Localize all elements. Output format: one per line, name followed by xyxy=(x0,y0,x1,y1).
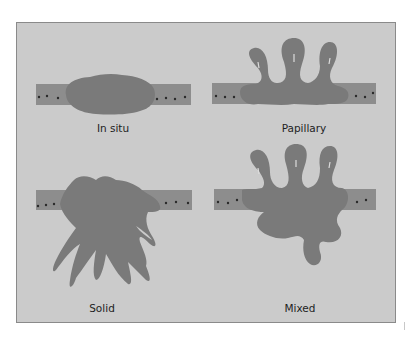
label-mixed: Mixed xyxy=(240,302,360,314)
tumor-mass xyxy=(242,144,348,265)
tumor-mass xyxy=(240,38,349,105)
label-in-situ: In situ xyxy=(53,122,173,134)
papillary-illustration xyxy=(212,38,376,105)
solid-illustration xyxy=(36,176,192,287)
scan-artifact-mark xyxy=(404,322,405,330)
tumor-mass xyxy=(53,176,160,287)
in-situ-illustration xyxy=(36,74,191,115)
label-papillary: Papillary xyxy=(244,122,364,134)
label-solid: Solid xyxy=(42,302,162,314)
tumor-growth-patterns-diagram xyxy=(0,0,413,339)
tumor-mass xyxy=(66,74,155,115)
mixed-illustration xyxy=(214,144,376,265)
